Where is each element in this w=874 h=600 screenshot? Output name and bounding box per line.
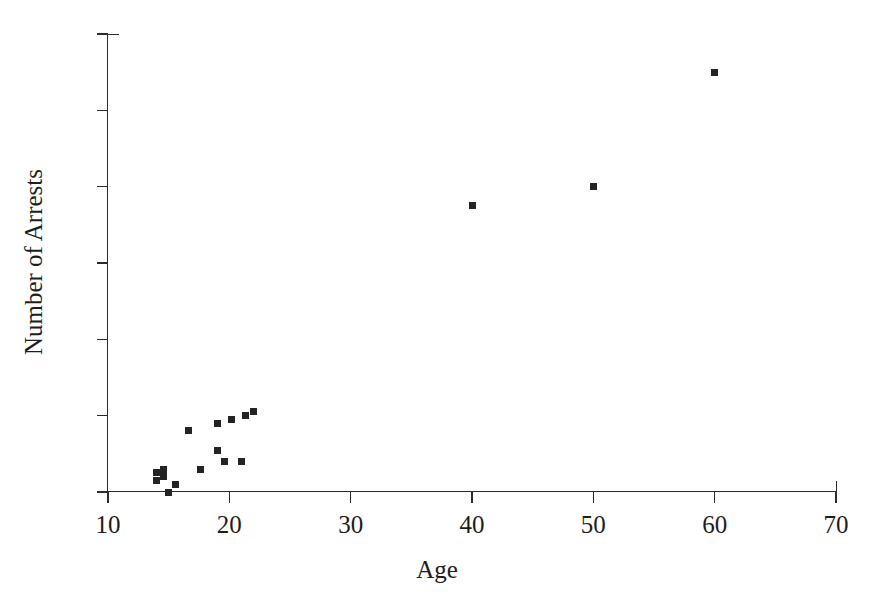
data-point xyxy=(214,420,221,427)
y-tick-mark xyxy=(97,110,108,111)
x-tick-label: 70 xyxy=(796,512,874,537)
data-point xyxy=(469,202,476,209)
data-point xyxy=(172,481,179,488)
x-tick-label: 60 xyxy=(675,512,755,537)
data-point xyxy=(160,473,167,480)
y-axis-title: Number of Arrests xyxy=(20,142,48,382)
x-tick-label: 20 xyxy=(189,512,269,537)
data-point xyxy=(185,427,192,434)
data-point xyxy=(197,466,204,473)
y-tick-mark xyxy=(97,186,108,187)
x-tick-mark xyxy=(471,492,472,503)
x-tick-mark xyxy=(593,492,594,503)
x-tick-mark xyxy=(350,492,351,503)
data-point xyxy=(153,469,160,476)
y-tick-mark xyxy=(97,415,108,416)
data-point xyxy=(590,183,597,190)
x-tick-label: 50 xyxy=(553,512,633,537)
scatter-chart: 0102030405060 10203040506070 Number of A… xyxy=(0,0,874,600)
y-tick-mark xyxy=(97,262,108,263)
x-tick-mark xyxy=(835,492,836,503)
x-axis-right-cap xyxy=(836,481,837,492)
y-tick-mark xyxy=(97,339,108,340)
data-point xyxy=(711,69,718,76)
y-tick-mark xyxy=(97,33,108,34)
data-point xyxy=(160,466,167,473)
y-axis-top-cap xyxy=(108,34,119,35)
data-point xyxy=(250,408,257,415)
x-axis-title: Age xyxy=(0,556,874,584)
data-point xyxy=(228,416,235,423)
data-point xyxy=(165,489,172,496)
data-point xyxy=(238,458,245,465)
scan-bleed-artifact xyxy=(0,0,874,10)
x-tick-mark xyxy=(107,492,108,503)
x-tick-label: 40 xyxy=(432,512,512,537)
x-tick-label: 10 xyxy=(68,512,148,537)
data-point xyxy=(153,477,160,484)
x-tick-mark xyxy=(714,492,715,503)
data-point xyxy=(242,412,249,419)
data-point xyxy=(221,458,228,465)
x-tick-label: 30 xyxy=(311,512,391,537)
x-tick-mark xyxy=(229,492,230,503)
data-point xyxy=(214,447,221,454)
